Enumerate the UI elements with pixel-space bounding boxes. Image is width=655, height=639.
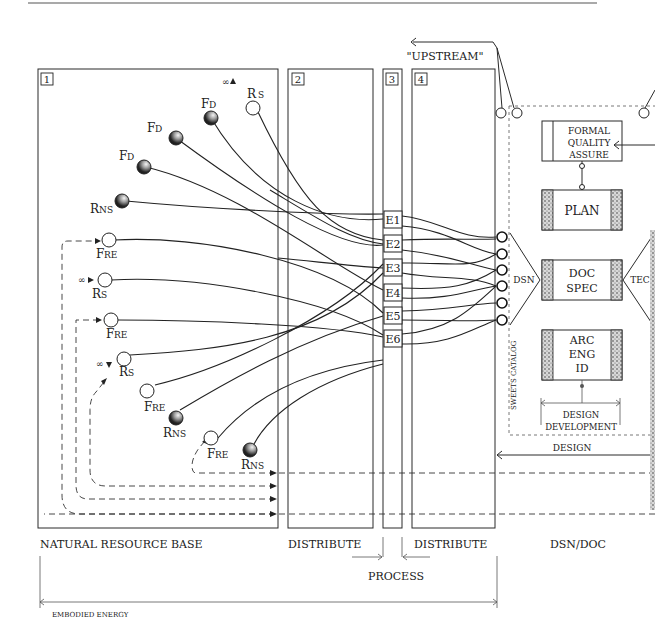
port-2 (497, 249, 507, 259)
node-rs-2: R S ∞ (78, 273, 112, 301)
svg-text:FORMAL: FORMAL (568, 126, 610, 136)
zone-2-label: DISTRIBUTE (288, 538, 361, 551)
svg-text:RE: RE (152, 403, 165, 413)
port-6 (497, 315, 507, 325)
svg-text:E1: E1 (385, 214, 400, 227)
svg-text:D: D (209, 100, 216, 110)
svg-text:ENG: ENG (569, 348, 595, 361)
port-1 (497, 232, 507, 242)
svg-text:DOC: DOC (569, 267, 595, 280)
svg-text:NS: NS (99, 205, 113, 215)
svg-text:R: R (247, 87, 257, 101)
process-unit-e4: E4 (384, 284, 402, 301)
fqa-plan-link (580, 161, 585, 190)
svg-text:S: S (128, 368, 134, 378)
process-units: E1 E2 E3 E4 E5 E6 (384, 211, 402, 347)
process-unit-e6: E6 (384, 330, 402, 347)
resource-nodes: R S ∞ F D F D F D R NS (78, 77, 264, 472)
embodied-energy-label: EMBODIED ENERGY (52, 611, 129, 619)
port-3 (497, 265, 507, 275)
svg-text:RE: RE (114, 330, 127, 340)
right-upstream-line (645, 90, 655, 108)
svg-text:QUALITY: QUALITY (568, 138, 612, 148)
node-fre-3: F RE (140, 384, 165, 414)
svg-text:E3: E3 (385, 262, 400, 275)
formal-quality-assure-box: FORMAL QUALITY ASSURE (542, 121, 622, 161)
process-unit-e1: E1 (384, 211, 402, 228)
zone-2-number: 2 (295, 74, 301, 85)
svg-text:SPEC: SPEC (566, 282, 597, 295)
design-arrow: DESIGN (497, 443, 655, 459)
node-rns-2: R NS (163, 411, 186, 440)
dsn-label: DSN (513, 275, 534, 285)
svg-text:D: D (127, 152, 134, 162)
zone-4-number: 4 (418, 74, 424, 85)
svg-text:ID: ID (575, 362, 588, 375)
embodied-energy-diagram: 1 2 3 4 "UPSTREAM" (0, 0, 655, 639)
svg-text:∞: ∞ (78, 275, 86, 285)
zone-1-number: 1 (44, 74, 50, 85)
svg-text:DEVELOPMENT: DEVELOPMENT (545, 422, 617, 432)
process-label: PROCESS (368, 570, 424, 583)
svg-text:NS: NS (172, 429, 186, 439)
plan-box: PLAN (542, 190, 622, 230)
svg-text:ASSURE: ASSURE (568, 150, 609, 160)
svg-text:D: D (155, 124, 162, 134)
node-fd-2: F D (147, 121, 183, 145)
svg-text:RE: RE (215, 450, 228, 460)
svg-text:PLAN: PLAN (564, 204, 599, 218)
svg-text:DESIGN: DESIGN (563, 410, 600, 420)
zone-2-box: 2 (288, 69, 373, 528)
svg-text:E2: E2 (385, 238, 400, 251)
svg-text:∞: ∞ (222, 77, 230, 87)
node-rs-top: R S ∞ (222, 77, 264, 115)
embodied-energy-span: EMBODIED ENERGY (40, 556, 497, 619)
design-development-bracket: DESIGN DEVELOPMENT (541, 380, 620, 432)
svg-text:NS: NS (250, 461, 264, 471)
node-fd-1: F D (201, 97, 218, 125)
node-rns-1: R NS (90, 194, 129, 216)
doc-spec-box: DOC SPEC (542, 260, 622, 300)
resource-wires (111, 112, 383, 448)
dsn-funnel: DSN (510, 233, 540, 325)
svg-text:∞: ∞ (96, 359, 104, 369)
upstream-label: "UPSTREAM" (406, 50, 483, 63)
zone-1-label: NATURAL RESOURCE BASE (40, 538, 203, 551)
node-fre-4: F RE (204, 431, 228, 461)
catalog-ports (497, 232, 507, 325)
port-4 (497, 281, 507, 291)
zone-3-number: 3 (389, 74, 395, 85)
svg-text:RE: RE (104, 250, 117, 260)
design-arrow-label: DESIGN (553, 443, 592, 453)
process-unit-e5: E5 (384, 307, 402, 324)
node-rns-3: R NS (241, 443, 264, 472)
node-fre-1: F RE (96, 233, 117, 261)
process-unit-e3: E3 (384, 259, 402, 276)
svg-text:E6: E6 (385, 333, 400, 346)
arc-eng-id-box: ARC ENG ID (542, 330, 622, 380)
tec-label: TEC (630, 275, 650, 285)
sweets-catalog-label: SWEETS CATALOG (510, 340, 518, 410)
zone-4-label: DISTRIBUTE (414, 538, 487, 551)
feedback-dashed-lines (44, 238, 655, 517)
node-fd-3: F D (119, 149, 151, 174)
svg-text:E4: E4 (385, 287, 400, 300)
svg-text:ARC: ARC (569, 334, 595, 347)
svg-text:S: S (101, 290, 107, 300)
output-wires (402, 216, 496, 344)
port-5 (497, 298, 507, 308)
node-fre-2: F RE (104, 313, 127, 341)
node-rs-3: R S ∞ (96, 352, 134, 379)
zone-dsn-doc-label: DSN/DOC (550, 538, 606, 551)
right-upstream-node (639, 108, 649, 118)
right-edge-texture (650, 230, 655, 510)
svg-text:E5: E5 (385, 310, 400, 323)
svg-text:S: S (258, 90, 264, 100)
process-unit-e2: E2 (384, 235, 402, 252)
